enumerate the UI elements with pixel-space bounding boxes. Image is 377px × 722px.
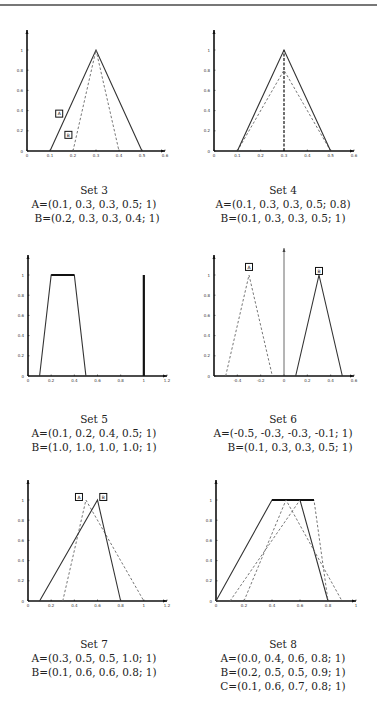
y-tick-label: 0.6 (204, 88, 211, 93)
caption-line-b: B=(1.0, 1.0, 1.0, 1.0; 1) (0, 440, 188, 454)
label-text-b: B (67, 133, 70, 138)
series-b-line (296, 275, 343, 376)
caption-line-a: A=(0.1, 0.3, 0.3, 0.5; 1) (0, 197, 188, 211)
x-tick-label: 0.2 (48, 378, 55, 383)
chart-set-8: 00.20.40.60.8100.20.40.60.81 (188, 450, 377, 625)
x-tick-label: 0.8 (117, 603, 124, 608)
caption-line-a: A=(0.0, 0.4, 0.6, 0.8; 1) (189, 651, 377, 665)
caption-set-7: Set 7 A=(0.3, 0.5, 0.5, 1.0; 1) B=(0.1, … (0, 637, 188, 679)
y-tick-label: 0 (207, 149, 210, 154)
label-text-b: B (317, 269, 320, 274)
chart-set-3: 00.10.20.30.40.50.600.20.40.60.81AB (0, 0, 190, 175)
caption-line-c: C=(0.1, 0.6, 0.7, 0.8; 1) (189, 679, 377, 693)
y-tick-label: 1 (21, 273, 24, 278)
series-a-line (226, 275, 273, 376)
y-tick-label: 1 (207, 48, 210, 53)
x-tick-label: 0.2 (48, 603, 55, 608)
y-tick-label: 0.8 (204, 293, 211, 298)
chart-set-6: -0.4-0.200.20.40.600.20.40.60.81AB (188, 225, 377, 400)
caption-line-b: B=(0.2, 0.3, 0.3, 0.4; 1) (0, 211, 188, 225)
series-a-line (50, 50, 142, 151)
caption-line-a: A=(0.3, 0.5, 0.5, 1.0; 1) (0, 651, 188, 665)
y-tick-label: 0.4 (17, 108, 24, 113)
caption-line-b: B=(0.2, 0.5, 0.5, 0.9; 1) (189, 665, 377, 679)
y-tick-label: 0.6 (17, 88, 24, 93)
series-a-line (63, 500, 144, 601)
y-tick-label: 1 (21, 498, 24, 503)
y-tick-label: 0.4 (18, 558, 25, 563)
x-tick-label: 0.4 (269, 603, 276, 608)
series-b-line (40, 500, 121, 601)
caption-set-5: Set 5 A=(0.1, 0.2, 0.4, 0.5; 1) B=(1.0, … (0, 412, 188, 454)
y-tick-label: 0.8 (206, 518, 213, 523)
y-tick-label: 0 (207, 374, 210, 379)
y-tick-label: 0.2 (204, 353, 211, 358)
x-tick-label: 0 (27, 378, 30, 383)
x-tick-label: 0.8 (325, 603, 332, 608)
y-tick-label: 0.2 (204, 128, 211, 133)
x-tick-label: 0.3 (281, 153, 288, 158)
x-tick-label: 0.4 (304, 153, 311, 158)
chart-set-7: 00.20.40.60.811.200.20.40.60.81AB (0, 450, 190, 625)
x-tick-label: 0.4 (116, 153, 123, 158)
y-tick-label: 0.8 (18, 293, 25, 298)
y-tick-label: 1 (20, 48, 23, 53)
y-tick-label: 0 (21, 599, 24, 604)
y-tick-label: 0.4 (18, 333, 25, 338)
y-tick-label: 1 (209, 498, 212, 503)
caption-title: Set 3 (0, 183, 188, 197)
x-tick-label: 0.1 (234, 153, 241, 158)
x-tick-label: 0.5 (327, 153, 334, 158)
y-tick-label: 0.2 (17, 128, 24, 133)
x-tick-label: 0.8 (117, 378, 124, 383)
x-tick-label: 0.6 (351, 153, 358, 158)
y-axis-arrow (27, 255, 30, 259)
x-tick-label: -0.2 (257, 378, 265, 383)
y-tick-label: 0.2 (18, 578, 25, 583)
caption-set-4: Set 4 A=(0.1, 0.3, 0.3, 0.5; 0.8) B=(0.1… (189, 183, 377, 225)
x-tick-label: 0.6 (297, 603, 304, 608)
x-tick-label: 1.2 (164, 378, 171, 383)
x-tick-label: 0 (26, 153, 29, 158)
x-tick-label: 0.6 (162, 153, 169, 158)
series-a-line (40, 275, 86, 376)
series-b-line (244, 500, 342, 601)
caption-set-3: Set 3 A=(0.1, 0.3, 0.3, 0.5; 1) B=(0.2, … (0, 183, 188, 225)
y-axis-arrow (27, 480, 30, 484)
caption-title: Set 4 (189, 183, 377, 197)
caption-line-b: B=(0.1, 0.3, 0.3, 0.5; 1) (189, 440, 377, 454)
y-tick-label: 0.4 (204, 108, 211, 113)
x-tick-label: 0.2 (257, 153, 264, 158)
y-tick-label: 0.4 (204, 333, 211, 338)
x-tick-label: 1.2 (164, 603, 171, 608)
x-tick-label: 0.2 (70, 153, 77, 158)
x-tick-label: 0.2 (304, 378, 311, 383)
x-tick-label: 0 (27, 603, 30, 608)
y-tick-label: 0.2 (206, 578, 213, 583)
x-tick-label: 1 (143, 603, 146, 608)
caption-line-b: B=(0.1, 0.3, 0.3, 0.5; 1) (189, 211, 377, 225)
x-tick-label: 0.6 (94, 378, 101, 383)
zero-axis-arrow (283, 248, 286, 252)
y-axis-arrow (26, 30, 29, 34)
series-b-line (73, 50, 119, 151)
series-a-line (216, 500, 328, 601)
y-axis-arrow (213, 30, 216, 34)
caption-title: Set 8 (189, 637, 377, 651)
y-tick-label: 0.4 (206, 558, 213, 563)
x-tick-label: 0.3 (93, 153, 100, 158)
x-tick-label: 0.6 (351, 378, 358, 383)
y-tick-label: 0.6 (206, 538, 213, 543)
caption-line-b: B=(0.1, 0.6, 0.6, 0.8; 1) (0, 665, 188, 679)
y-tick-label: 0.8 (18, 518, 25, 523)
y-tick-label: 0.6 (204, 313, 211, 318)
x-tick-label: 0.4 (327, 378, 334, 383)
x-tick-label: 0.5 (139, 153, 146, 158)
x-tick-label: 0.4 (71, 603, 78, 608)
x-tick-label: -0.4 (233, 378, 241, 383)
y-tick-label: 1 (207, 273, 210, 278)
chart-set-4: 00.10.20.30.40.50.600.20.40.60.81 (188, 0, 377, 175)
caption-title: Set 6 (189, 412, 377, 426)
caption-line-a: A=(0.1, 0.3, 0.3, 0.5; 0.8) (189, 197, 377, 211)
y-tick-label: 0.2 (18, 353, 25, 358)
